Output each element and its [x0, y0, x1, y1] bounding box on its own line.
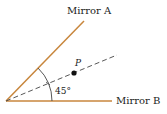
mirror-a: [6, 21, 84, 101]
mirror-a-label: Mirror A: [67, 5, 111, 16]
point-p-label: P: [75, 58, 81, 68]
angle-label: 45°: [55, 86, 71, 96]
point-p: [71, 70, 76, 75]
mirror-b-label: Mirror B: [116, 95, 160, 106]
